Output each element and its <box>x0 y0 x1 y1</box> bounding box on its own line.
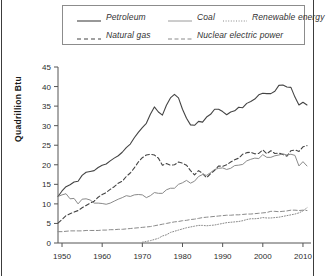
x-tick-label: 2010 <box>294 252 312 261</box>
chart-plot-area: 051015202530354045 195019601970198019902… <box>0 0 327 276</box>
series-line-renewable-energy <box>142 208 307 242</box>
y-tick-label: 45 <box>42 63 51 72</box>
x-axis-ticks: 1950196019701980199020002010 <box>53 243 312 261</box>
y-axis-ticks: 051015202530354045 <box>42 63 58 248</box>
x-tick-label: 1960 <box>93 252 111 261</box>
y-tick-label: 0 <box>47 239 52 248</box>
series-line-coal <box>58 154 307 204</box>
y-tick-label: 10 <box>42 200 51 209</box>
y-tick-label: 20 <box>42 161 51 170</box>
y-tick-label: 15 <box>42 180 51 189</box>
series-line-petroleum <box>58 85 307 196</box>
figure-container: Petroleum Coal Renewable energy Natur <box>0 0 327 276</box>
y-tick-label: 5 <box>47 219 52 228</box>
x-tick-label: 1950 <box>53 252 71 261</box>
x-tick-label: 1970 <box>133 252 151 261</box>
y-tick-label: 25 <box>42 141 51 150</box>
x-tick-label: 1980 <box>174 252 192 261</box>
series-line-nuclear-electric-power <box>58 210 307 232</box>
x-tick-label: 2000 <box>254 252 272 261</box>
y-tick-label: 30 <box>42 122 51 131</box>
y-tick-label: 35 <box>42 102 51 111</box>
y-tick-label: 40 <box>42 83 51 92</box>
x-tick-label: 1990 <box>214 252 232 261</box>
data-series-group <box>58 85 307 242</box>
